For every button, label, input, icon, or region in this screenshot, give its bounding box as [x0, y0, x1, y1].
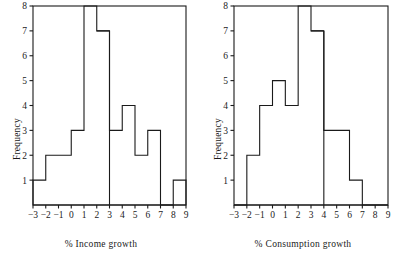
x-tick-label: 4 — [321, 210, 326, 220]
income-histogram-plot: 12345678−3−2−10123456789 — [0, 0, 202, 237]
x-tick-label: 1 — [82, 210, 87, 220]
x-tick-label: 9 — [184, 210, 189, 220]
y-tick-label: 6 — [22, 51, 27, 61]
x-tick-label: −1 — [255, 210, 265, 220]
x-tick-label: 8 — [171, 210, 176, 220]
y-tick-label: 3 — [22, 126, 27, 136]
y-tick-label: 1 — [22, 176, 27, 186]
x-tick-label: 7 — [360, 210, 365, 220]
y-tick-label: 7 — [223, 26, 228, 36]
x-tick-label: 0 — [270, 210, 275, 220]
x-tick-label: 5 — [133, 210, 138, 220]
histogram-outline — [234, 6, 388, 205]
panel-consumption-growth: Frequency 12345678−3−2−10123456789 % Con… — [202, 0, 404, 257]
x-tick-label: −2 — [242, 210, 252, 220]
y-tick-label: 2 — [22, 151, 27, 161]
figure-histogram-pair: Frequency 12345678−3−2−10123456789 % Inc… — [0, 0, 404, 257]
x-tick-label: 3 — [309, 210, 314, 220]
y-tick-label: 4 — [223, 101, 228, 111]
plot-frame — [234, 6, 388, 205]
y-tick-label: 8 — [22, 1, 27, 11]
x-tick-label: 7 — [158, 210, 163, 220]
x-tick-label: 2 — [94, 210, 99, 220]
x-tick-label: −3 — [229, 210, 239, 220]
panel-income-growth: Frequency 12345678−3−2−10123456789 % Inc… — [0, 0, 202, 257]
y-tick-label: 2 — [223, 151, 228, 161]
x-axis-label-consumption: % Consumption growth — [202, 239, 404, 249]
y-tick-label: 7 — [22, 26, 27, 36]
y-tick-label: 8 — [223, 1, 228, 11]
y-tick-label: 3 — [223, 126, 228, 136]
x-tick-label: 6 — [145, 210, 150, 220]
x-tick-label: 0 — [69, 210, 74, 220]
x-tick-label: −1 — [53, 210, 63, 220]
y-tick-label: 6 — [223, 51, 228, 61]
y-tick-label: 4 — [22, 101, 27, 111]
x-tick-label: 9 — [386, 210, 391, 220]
x-tick-label: −3 — [28, 210, 38, 220]
y-tick-label: 5 — [22, 76, 27, 86]
x-tick-label: 4 — [120, 210, 125, 220]
y-tick-label: 1 — [223, 176, 228, 186]
x-tick-label: 2 — [296, 210, 301, 220]
x-tick-label: 8 — [373, 210, 378, 220]
x-tick-label: 1 — [283, 210, 288, 220]
y-tick-label: 5 — [223, 76, 228, 86]
x-tick-label: −2 — [41, 210, 51, 220]
x-tick-label: 3 — [107, 210, 112, 220]
x-tick-label: 6 — [347, 210, 352, 220]
x-tick-label: 5 — [334, 210, 339, 220]
x-axis-label-income: % Income growth — [0, 239, 202, 249]
consumption-histogram-plot: 12345678−3−2−10123456789 — [202, 0, 404, 237]
